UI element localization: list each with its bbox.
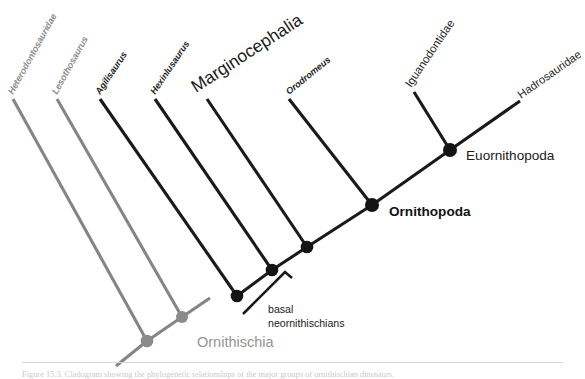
node-ornithopoda: [365, 198, 379, 212]
bracket-label-line1: basal: [268, 303, 293, 315]
branch-orodromeus: [289, 99, 372, 205]
tip-label-lesothosaurus: Lesothosaurus: [50, 35, 90, 96]
clade-label-group: Ornithischia Ornithopoda Euornithopoda: [197, 148, 555, 350]
branch-agilisaurus: [100, 99, 237, 296]
black-branch-group: [100, 92, 520, 296]
branch-marginocephalia: [207, 99, 307, 247]
tip-label-agilisaurus: Agilisaurus: [93, 50, 129, 97]
clade-label-ornithopoda: Ornithopoda: [389, 204, 471, 219]
tip-label-hexinlusaurus: Hexinlusaurus: [148, 39, 191, 96]
branch-hadrosauridae: [450, 101, 520, 150]
node-ornithischia: [141, 335, 154, 348]
clade-label-ornithischia: Ornithischia: [197, 334, 274, 350]
branch-hexinlusaurus: [155, 99, 272, 270]
branch-iguanodontidae: [414, 92, 450, 150]
node-neornithischia: [176, 311, 188, 323]
bracket-label-group: basal neornithischians: [268, 303, 345, 329]
bracket-label-line2: neornithischians: [268, 317, 345, 329]
cladogram-figure: Heterodontosauridae Lesothosaurus Agilis…: [0, 0, 585, 379]
figure-caption-group: Figure 15.3. Cladogram showing the phylo…: [22, 363, 563, 379]
node-agilisaurus-clade: [231, 290, 244, 303]
tip-label-hadrosauridae: Hadrosauridae: [515, 48, 583, 101]
cladogram-canvas: Heterodontosauridae Lesothosaurus Agilis…: [0, 0, 585, 379]
branch-ornithopoda-to-euornithopoda: [372, 150, 450, 205]
node-hexinlusaurus-clade: [266, 264, 279, 277]
tip-label-heterodontosauridae: Heterodontosauridae: [6, 12, 59, 96]
branch-agilisaurus-to-hexinlusaurus: [237, 270, 272, 296]
figure-caption: Figure 15.3. Cladogram showing the phylo…: [22, 370, 394, 379]
node-cerapoda: [301, 241, 314, 254]
tip-label-iguanodontidae: Iguanodontidae: [403, 17, 457, 89]
clade-label-euornithopoda: Euornithopoda: [466, 148, 555, 163]
tip-label-orodromeus: Orodromeus: [284, 55, 332, 97]
branch-cerapoda-to-ornithopoda: [307, 205, 372, 247]
tip-label-group: Heterodontosauridae Lesothosaurus Agilis…: [6, 9, 583, 100]
branch-lesothosaurus: [57, 99, 182, 317]
branch-ornithischia-to-neornithischia: [147, 317, 182, 341]
tip-label-marginocephalia: Marginocephalia: [187, 9, 306, 96]
gray-branch-group: [13, 99, 210, 366]
node-euornithopoda: [443, 143, 457, 157]
